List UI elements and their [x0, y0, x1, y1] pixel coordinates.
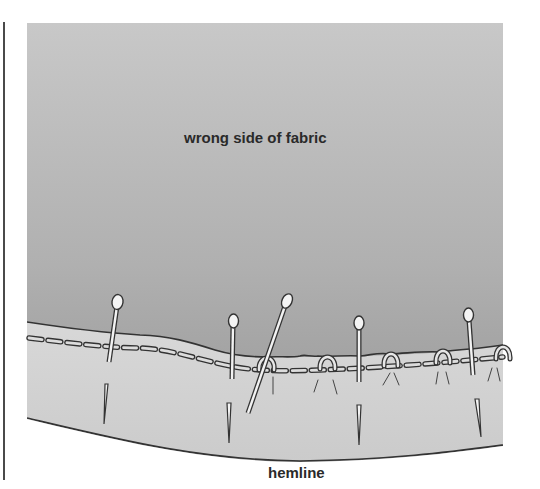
fabric-label: wrong side of fabric: [184, 129, 327, 146]
hemline-label: hemline: [268, 464, 325, 481]
hem-illustration: [0, 0, 540, 489]
